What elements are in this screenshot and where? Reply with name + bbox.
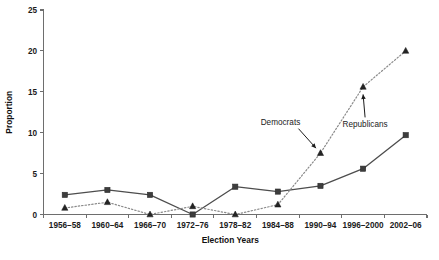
series-line: [65, 51, 406, 215]
y-axis-tick-label: 15: [28, 88, 38, 97]
data-point-marker: [233, 184, 238, 189]
chart-annotations-layer: DemocratsRepublicans: [261, 94, 388, 148]
data-point-marker: [190, 203, 196, 209]
y-axis-tick-label: 20: [28, 47, 38, 56]
data-point-marker: [318, 183, 323, 188]
y-axis-tick-label: 5: [32, 170, 37, 179]
annotation-democrats: Democrats: [261, 118, 316, 148]
series-republicans: [62, 133, 408, 218]
data-point-marker: [62, 204, 68, 210]
data-point-marker: [403, 47, 409, 53]
data-point-marker: [105, 187, 110, 192]
data-point-marker: [104, 199, 110, 205]
x-axis-tick-label: 1972–76: [177, 221, 209, 230]
y-axis-tick-labels: 0510152025: [28, 6, 38, 220]
x-axis-tick-label: 1996–2000: [343, 221, 384, 230]
data-point-marker: [360, 166, 365, 171]
x-axis-title: Election Years: [202, 235, 259, 245]
y-axis-tick-label: 10: [28, 129, 38, 138]
chart-series-layer: [62, 47, 409, 217]
data-point-marker: [275, 189, 280, 194]
series-line: [65, 135, 406, 214]
data-point-marker: [147, 192, 152, 197]
data-point-marker: [190, 212, 195, 217]
x-axis-tick-labels: 1956–581960–641966–701972–761978–821984–…: [49, 221, 422, 230]
y-axis-tick-label: 0: [32, 211, 37, 220]
x-axis-tick-label: 1990–94: [305, 221, 337, 230]
x-axis-tick-label: 2002–06: [390, 221, 422, 230]
annotation-label: Republicans: [343, 120, 388, 129]
annotation-arrowhead: [361, 94, 366, 99]
x-axis-tick-label: 1966–70: [134, 221, 166, 230]
annotation-republicans: Republicans: [343, 94, 388, 129]
data-point-marker: [360, 83, 366, 89]
x-axis-tick-label: 1978–82: [219, 221, 251, 230]
x-axis-tick-label: 1956–58: [49, 221, 81, 230]
annotation-label: Democrats: [261, 118, 301, 127]
series-democrats: [62, 47, 409, 216]
data-point-marker: [317, 150, 323, 156]
y-axis-title: Proportion: [4, 91, 14, 134]
data-point-marker: [403, 133, 408, 138]
chart-figure: 0510152025 1956–581960–641966–701972–761…: [0, 0, 439, 260]
x-axis-tick-label: 1960–64: [91, 221, 123, 230]
y-axis-tick-label: 25: [28, 6, 38, 15]
data-point-marker: [62, 192, 67, 197]
line-chart: 0510152025 1956–581960–641966–701972–761…: [0, 0, 439, 260]
x-axis-tick-label: 1984–88: [262, 221, 294, 230]
